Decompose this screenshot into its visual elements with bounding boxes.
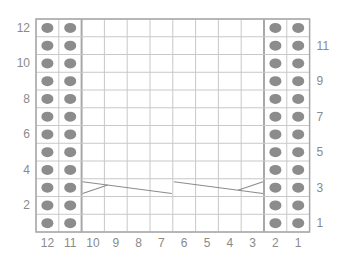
purl-dot-icon — [41, 129, 53, 139]
column-label: 11 — [64, 236, 77, 250]
purl-dot-icon — [292, 147, 304, 157]
purl-dot-icon — [292, 94, 304, 104]
purl-dot-icon — [269, 218, 281, 228]
column-label: 6 — [181, 236, 188, 250]
purl-dot-icon — [292, 76, 304, 86]
grid — [36, 19, 310, 232]
purl-dot-icon — [292, 58, 304, 68]
purl-dot-icon — [292, 218, 304, 228]
row-label: 7 — [317, 110, 324, 124]
purl-dot-icon — [41, 112, 53, 122]
purl-dot-icon — [269, 112, 281, 122]
purl-dot-icon — [41, 94, 53, 104]
purl-dot-icon — [64, 112, 76, 122]
column-labels: 121110987654321 — [41, 236, 302, 250]
purl-dot-icon — [41, 218, 53, 228]
purl-dot-icon — [269, 23, 281, 33]
purl-dot-icon — [269, 147, 281, 157]
purl-dot-icon — [269, 183, 281, 193]
row-label: 6 — [23, 127, 30, 141]
column-label: 8 — [135, 236, 142, 250]
purl-dot-icon — [64, 147, 76, 157]
column-label: 7 — [158, 236, 165, 250]
row-label: 2 — [23, 198, 30, 212]
column-label: 1 — [295, 236, 302, 250]
purl-dot-icon — [269, 200, 281, 210]
purl-dot-icon — [269, 165, 281, 175]
column-label: 4 — [226, 236, 233, 250]
knitting-chart: 121110987654321121086421197531 — [0, 0, 345, 263]
row-label: 3 — [317, 181, 324, 195]
row-label: 5 — [317, 145, 324, 159]
purl-dot-icon — [64, 58, 76, 68]
row-label: 1 — [317, 216, 324, 230]
purl-dot-icon — [292, 129, 304, 139]
purl-dot-icon — [292, 200, 304, 210]
row-label: 4 — [23, 163, 30, 177]
row-label: 10 — [17, 56, 31, 70]
purl-dot-icon — [41, 147, 53, 157]
purl-dot-icon — [41, 183, 53, 193]
purl-dot-icon — [269, 129, 281, 139]
row-label: 8 — [23, 92, 30, 106]
purl-dot-icon — [64, 129, 76, 139]
column-label: 10 — [86, 236, 100, 250]
purl-dot-icon — [64, 76, 76, 86]
purl-dot-icon — [64, 94, 76, 104]
purl-dot-icon — [64, 23, 76, 33]
purl-dot-icon — [41, 165, 53, 175]
purl-dot-icon — [292, 183, 304, 193]
purl-dot-icon — [292, 112, 304, 122]
purl-dot-icon — [41, 41, 53, 51]
row-label: 11 — [317, 39, 330, 53]
purl-dot-icon — [41, 23, 53, 33]
purl-dot-icon — [269, 76, 281, 86]
purl-dot-icon — [41, 76, 53, 86]
purl-dot-icon — [292, 41, 304, 51]
purl-dot-icon — [64, 41, 76, 51]
purl-dot-icon — [269, 94, 281, 104]
left-row-labels: 12108642 — [17, 21, 31, 213]
purl-dot-icon — [41, 200, 53, 210]
column-label: 5 — [204, 236, 211, 250]
column-label: 2 — [272, 236, 279, 250]
purl-dot-icon — [64, 218, 76, 228]
purl-dot-icon — [41, 58, 53, 68]
purl-dot-icon — [292, 23, 304, 33]
column-label: 9 — [112, 236, 119, 250]
purl-dot-icon — [64, 183, 76, 193]
purl-dot-icon — [64, 165, 76, 175]
right-row-labels: 1197531 — [317, 39, 330, 231]
column-label: 3 — [249, 236, 256, 250]
column-label: 12 — [41, 236, 55, 250]
purl-dot-icon — [269, 58, 281, 68]
purl-dot-icon — [292, 165, 304, 175]
row-label: 12 — [17, 21, 31, 35]
purl-dot-icon — [269, 41, 281, 51]
row-label: 9 — [317, 74, 324, 88]
purl-dot-icon — [64, 200, 76, 210]
